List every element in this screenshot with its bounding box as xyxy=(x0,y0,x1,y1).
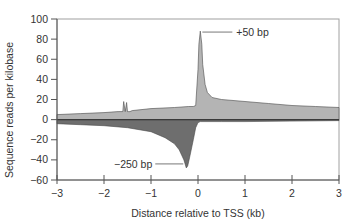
y-tick-label: 60 xyxy=(36,53,48,65)
x-axis-title: Distance relative to TSS (kb) xyxy=(131,207,264,219)
antisense-area xyxy=(57,120,339,168)
x-tick-label: −2 xyxy=(98,187,110,199)
x-tick-label: 2 xyxy=(289,187,295,199)
y-tick-label: −40 xyxy=(30,153,48,165)
y-tick-label: 100 xyxy=(30,13,48,25)
chart: 100806040200−20−40−60−3−2−10123 +50 bp−2… xyxy=(0,0,348,224)
x-tick-label: −1 xyxy=(145,187,157,199)
sense-area xyxy=(57,31,339,120)
y-tick-label: −60 xyxy=(30,174,48,186)
y-tick-label: −20 xyxy=(30,133,48,145)
y-tick-label: 40 xyxy=(36,73,48,85)
x-tick-label: −3 xyxy=(51,187,63,199)
y-axis-title: Sequence reads per kilobase xyxy=(3,42,15,178)
data-areas xyxy=(57,31,339,168)
annotation-minus250bp: −250 bp xyxy=(114,158,152,170)
x-tick-label: 3 xyxy=(336,187,342,199)
x-tick-label: 0 xyxy=(195,187,201,199)
annotation-plus50bp: +50 bp xyxy=(236,26,269,38)
x-tick-label: 1 xyxy=(242,187,248,199)
y-tick-label: 20 xyxy=(36,93,48,105)
y-tick-label: 80 xyxy=(36,33,48,45)
y-tick-label: 0 xyxy=(42,113,48,125)
